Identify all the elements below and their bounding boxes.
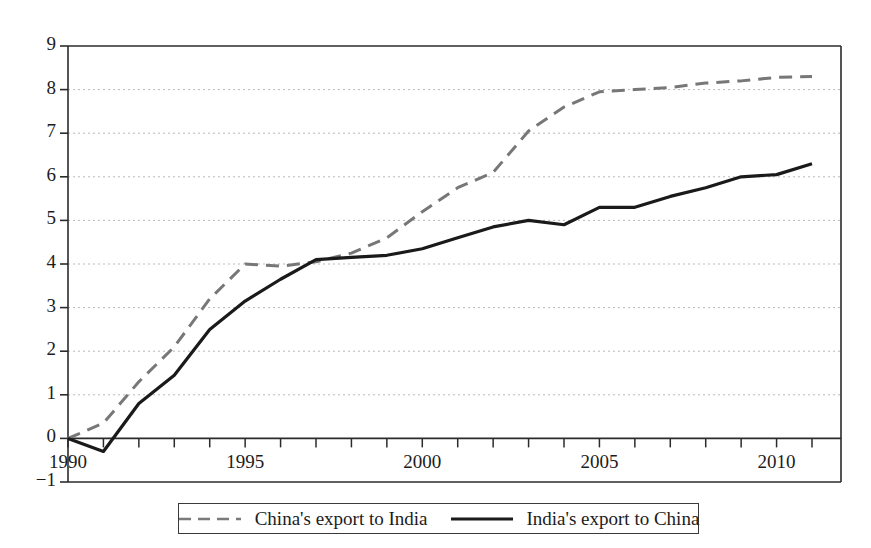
legend-label-india-export: India's export to China	[527, 508, 700, 530]
y-tick-label: 8	[22, 77, 56, 99]
x-tick-label: 2010	[742, 451, 812, 473]
dashed-line-swatch-icon	[178, 514, 242, 524]
legend-item-china-export: China's export to India	[178, 508, 428, 530]
y-tick-label: 5	[22, 207, 56, 229]
series-line-1	[68, 77, 812, 439]
legend-label-china-export: China's export to India	[255, 508, 428, 530]
y-tick-label: 7	[22, 120, 56, 142]
y-tick-label: 6	[22, 164, 56, 186]
solid-line-swatch-icon	[450, 514, 514, 524]
x-tick-label: 1995	[210, 451, 280, 473]
gridlines	[68, 90, 841, 395]
chart-legend: China's export to India India's export t…	[178, 503, 699, 534]
y-tick-label: 3	[22, 295, 56, 317]
y-tick-label: 2	[22, 338, 56, 360]
x-tick-label: 1990	[33, 451, 103, 473]
y-tick-label: 9	[22, 33, 56, 55]
x-tick-label: 2005	[564, 451, 634, 473]
y-tick-label: 1	[22, 382, 56, 404]
x-tick-label: 2000	[387, 451, 457, 473]
legend-item-india-export: India's export to China	[450, 508, 700, 530]
y-tick-label: 0	[22, 425, 56, 447]
y-tick-label: 4	[22, 251, 56, 273]
line-chart: −10123456789 19901995200020052010 China'…	[0, 0, 871, 548]
